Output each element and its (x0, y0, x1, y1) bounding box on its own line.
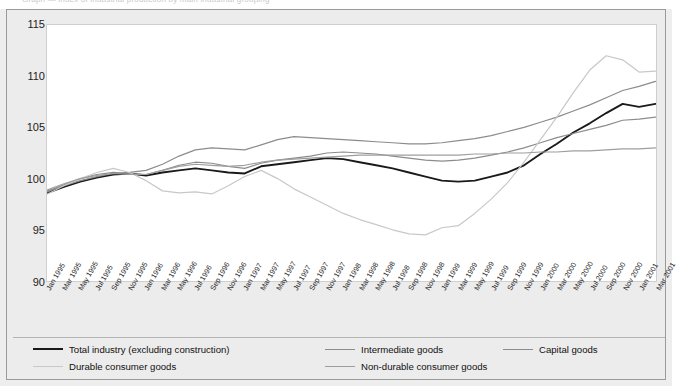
line-chart-svg (47, 25, 656, 281)
legend-label: Durable consumer goods (69, 361, 176, 372)
series-line (47, 148, 655, 190)
y-tick-label: 110 (11, 71, 45, 82)
legend-label: Non-durable consumer goods (361, 361, 487, 372)
y-tick-label: 95 (11, 225, 45, 236)
chart-frame: 9095100105110115 Jan 1995Mar 1995May 199… (6, 9, 666, 380)
legend-item[interactable]: Durable consumer goods (33, 360, 176, 374)
series-line (47, 117, 655, 192)
x-axis: Jan 1995Mar 1995May 1995Jul 1995Sep 1995… (46, 284, 661, 344)
legend-item[interactable]: Intermediate goods (325, 343, 443, 357)
legend-item[interactable]: Non-durable consumer goods (325, 360, 487, 374)
chart-legend: Total industry (excluding construction)I… (33, 343, 653, 379)
series-line (47, 104, 655, 193)
y-tick-label: 105 (11, 122, 45, 133)
legend-label: Intermediate goods (361, 344, 443, 355)
y-tick-label: 115 (11, 19, 45, 30)
legend-swatch (503, 349, 533, 350)
legend-swatch (33, 348, 63, 350)
legend-item[interactable]: Capital goods (503, 343, 598, 357)
legend-divider (13, 337, 665, 338)
legend-swatch (33, 366, 63, 367)
series-line (47, 56, 655, 235)
legend-item[interactable]: Total industry (excluding construction) (33, 343, 230, 357)
y-tick-label: 100 (11, 174, 45, 185)
legend-swatch (325, 349, 355, 350)
cropped-caption-text: Graph — index of industrial production b… (22, 0, 270, 4)
y-tick-label: 90 (11, 277, 45, 288)
top-cropped-text-strip: Graph — index of industrial production b… (0, 0, 672, 9)
y-axis: 9095100105110115 (7, 10, 45, 300)
legend-label: Capital goods (539, 344, 598, 355)
legend-swatch (325, 366, 355, 367)
legend-label: Total industry (excluding construction) (69, 344, 230, 355)
plot-area (46, 24, 657, 282)
